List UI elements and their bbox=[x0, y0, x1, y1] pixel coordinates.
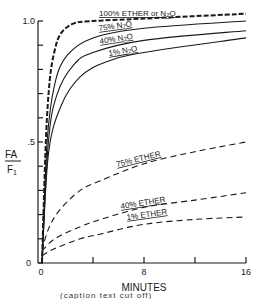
curves bbox=[42, 14, 246, 263]
axes bbox=[38, 21, 246, 263]
x-tick-label: 8 bbox=[141, 267, 146, 277]
curve-labels: .51.000816100% ETHER or N2O75% N2O40% N2… bbox=[22, 9, 251, 277]
y-axis-label-numerator: FA bbox=[5, 149, 18, 160]
curve-100-ether-or-n2o bbox=[42, 14, 246, 263]
figure-caption: (caption text cut off) bbox=[60, 292, 250, 299]
curve-75-n2o bbox=[42, 21, 246, 263]
chart: .51.000816100% ETHER or N2O75% N2O40% N2… bbox=[0, 0, 263, 299]
curve-1-n2o bbox=[42, 38, 246, 263]
curve-40-n2o bbox=[42, 31, 246, 263]
curve-label: 40% N2O bbox=[99, 32, 134, 46]
curve-label: 75% ETHER bbox=[115, 149, 161, 169]
y-tick-label: .5 bbox=[27, 137, 35, 147]
x-tick-label: 0 bbox=[38, 267, 43, 277]
y-axis-label-denominator: F1 bbox=[7, 164, 17, 176]
y-tick-label: 1.0 bbox=[22, 16, 35, 26]
curve-label: 100% ETHER or N2O bbox=[99, 9, 176, 18]
y-tick-label-origin: 0 bbox=[26, 258, 31, 268]
curve-1-ether bbox=[42, 217, 246, 256]
x-tick-label: 16 bbox=[241, 267, 251, 277]
